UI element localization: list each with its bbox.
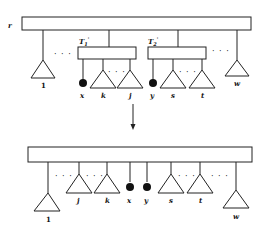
leaf-node-y xyxy=(149,79,157,87)
label-t: t xyxy=(201,91,205,100)
ellipsis: · · · xyxy=(86,172,104,181)
subtree-triangle-w xyxy=(225,60,249,76)
label-s: s xyxy=(169,196,173,205)
label-w: w xyxy=(233,212,240,221)
ellipsis: · · · xyxy=(55,172,73,181)
ellipsis: · · · xyxy=(179,68,197,77)
tree-transformation-diagram: r T1' T2' 1 x k j y s t w · · · · · · · … xyxy=(0,0,266,231)
subtree-T1-bar xyxy=(78,47,136,59)
ellipsis: · · · xyxy=(211,172,229,181)
label-k: k xyxy=(101,91,106,100)
leaf-node-x xyxy=(79,79,87,87)
label-1: 1 xyxy=(41,81,46,90)
label-t: t xyxy=(199,196,203,205)
merged-root-bar xyxy=(28,147,252,162)
label-r: r xyxy=(8,21,13,30)
label-x: x xyxy=(79,91,85,100)
leaf-node-x xyxy=(126,183,134,191)
leaf-node-y xyxy=(143,183,151,191)
ellipsis: · · · xyxy=(178,172,196,181)
label-j: j xyxy=(127,91,132,100)
label-w: w xyxy=(234,79,241,88)
label-s: s xyxy=(171,91,175,100)
subtree-triangle-1 xyxy=(31,60,55,78)
ellipsis: · · · xyxy=(108,68,126,77)
root-node-bar xyxy=(22,17,251,30)
down-arrow-icon xyxy=(131,124,136,130)
label-k: k xyxy=(105,196,110,205)
subtree-triangle-1 xyxy=(34,193,60,211)
label-j: j xyxy=(75,196,80,205)
label-T1: T1' xyxy=(79,36,90,47)
label-T2: T2' xyxy=(148,36,159,47)
subtree-triangle-w xyxy=(223,190,249,208)
ellipsis: · · · xyxy=(54,50,72,59)
subtree-T2-bar xyxy=(148,47,206,59)
label-y: y xyxy=(143,196,149,205)
label-1: 1 xyxy=(46,215,51,224)
label-x: x xyxy=(126,196,132,205)
label-y: y xyxy=(149,91,155,100)
ellipsis: · · · xyxy=(212,47,230,56)
